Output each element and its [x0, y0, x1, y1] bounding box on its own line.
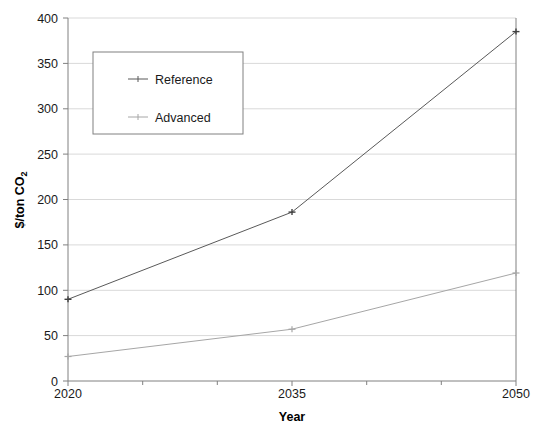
svg-text:$/ton CO2: $/ton CO2: [13, 171, 29, 228]
x-tick-label: 2050: [502, 387, 530, 401]
y-axis-title-subscript: 2: [19, 171, 29, 176]
x-tick-label: 2020: [54, 387, 82, 401]
line-chart-svg: 400 350 300 250 200 150 100 50 0 2020 20…: [0, 0, 544, 434]
y-tick-label: 150: [37, 238, 58, 252]
y-tick-label: 400: [37, 12, 58, 26]
legend-label-advanced: Advanced: [155, 111, 211, 125]
y-axis-title: $/ton CO2: [13, 171, 29, 228]
y-tick-label: 350: [37, 57, 58, 71]
x-tick-label: 2035: [278, 387, 306, 401]
legend[interactable]: Reference Advanced: [93, 52, 243, 134]
y-tick-label: 50: [44, 329, 58, 343]
chart-container: 400 350 300 250 200 150 100 50 0 2020 20…: [0, 0, 544, 434]
y-tick-label: 250: [37, 148, 58, 162]
chart-background: [0, 0, 544, 434]
legend-label-reference: Reference: [155, 73, 213, 87]
x-axis-title: Year: [279, 410, 306, 424]
y-tick-label: 300: [37, 102, 58, 116]
y-axis-title-main: $/ton CO: [13, 176, 27, 228]
y-tick-label: 100: [37, 284, 58, 298]
y-tick-label: 200: [37, 193, 58, 207]
